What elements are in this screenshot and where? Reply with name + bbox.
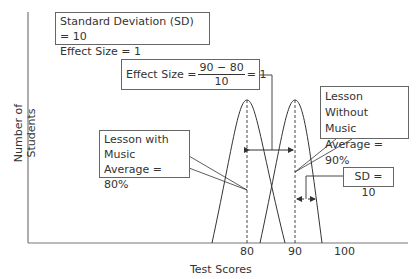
- effect-size-prefix: Effect Size =: [126, 67, 196, 82]
- no-music-box-line3: Average = 90%: [325, 137, 404, 169]
- music-lesson-box: Lesson with Music Average = 80%: [99, 130, 190, 178]
- music-box-line1: Lesson with: [104, 132, 185, 147]
- effect-size-info-text: Effect Size = 1: [60, 44, 205, 59]
- effect-size-fraction: 90 − 80 10: [198, 61, 244, 88]
- x-tick-80: 80: [240, 245, 254, 258]
- music-callout-line-2: [189, 168, 247, 190]
- sd-info-text: Standard Deviation (SD) = 10: [60, 14, 205, 44]
- no-music-lesson-box: Lesson Without Music Average = 90%: [320, 86, 409, 139]
- x-tick-100: 100: [334, 245, 355, 258]
- x-tick-90: 90: [288, 245, 302, 258]
- effect-size-box: Effect Size = 90 − 80 10 = 1: [121, 59, 260, 90]
- sd-box: SD = 10: [343, 167, 394, 187]
- info-box: Standard Deviation (SD) = 10 Effect Size…: [55, 12, 210, 45]
- music-box-line3: Average = 80%: [104, 162, 185, 192]
- no-music-box-line1: Lesson Without: [325, 89, 404, 121]
- music-callout-line-1: [189, 156, 247, 190]
- no-music-box-line2: Music: [325, 121, 404, 137]
- no-music-distribution-curve: [260, 100, 322, 243]
- x-axis-label: Test Scores: [190, 263, 252, 276]
- fraction-numerator: 90 − 80: [198, 61, 244, 75]
- fraction-denominator: 10: [215, 75, 229, 88]
- y-axis-label: Number of Students: [12, 78, 38, 188]
- music-box-line2: Music: [104, 147, 185, 162]
- music-distribution-curve: [212, 100, 285, 243]
- effect-size-connector: [260, 75, 272, 150]
- effect-size-suffix: = 1: [247, 67, 267, 82]
- sd-connector: [306, 176, 343, 199]
